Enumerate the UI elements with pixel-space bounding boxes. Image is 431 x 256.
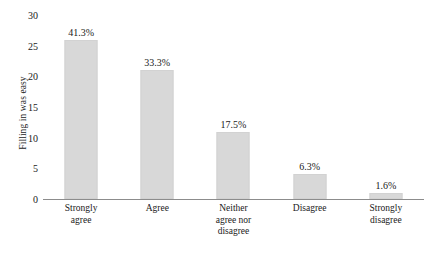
bar[interactable] <box>65 40 98 199</box>
x-category-label-line: Strongly <box>348 203 424 215</box>
bar-value-label: 6.3% <box>299 161 320 172</box>
bar-value-label: 41.3% <box>68 27 94 38</box>
bar[interactable] <box>293 174 326 199</box>
x-category-label-line: Agree <box>119 203 195 215</box>
y-tick-label: 30 <box>28 10 38 21</box>
x-category-label: Agree <box>119 203 195 215</box>
x-category-label-line: agree nor <box>195 215 271 227</box>
y-tick-label: 5 <box>33 163 38 174</box>
x-category-label: Stronglydisagree <box>348 203 424 226</box>
y-tick-label: 20 <box>28 71 38 82</box>
bar[interactable] <box>217 132 250 199</box>
bar-value-label: 17.5% <box>221 119 247 130</box>
bar-group: 41.3% <box>43 15 119 199</box>
y-tick-label: 25 <box>28 40 38 51</box>
y-axis-title: Filling in was easy <box>18 43 28 183</box>
x-category-label-line: Neither <box>195 203 271 215</box>
x-category-label: Stronglyagree <box>43 203 119 226</box>
x-category-label-line: disagree <box>348 215 424 227</box>
x-category-label: Neitheragree nordisagree <box>195 203 271 238</box>
bar[interactable] <box>141 70 174 199</box>
x-category-label-line: agree <box>43 215 119 227</box>
bar-group: 17.5% <box>195 15 271 199</box>
x-category-label: Disagree <box>272 203 348 215</box>
x-category-label-line: Strongly <box>43 203 119 215</box>
bar-group: 1.6% <box>348 15 424 199</box>
plot-area: 05101520253041.3%33.3%17.5%6.3%1.6% <box>43 15 424 199</box>
x-category-label-line: Disagree <box>272 203 348 215</box>
bar-group: 33.3% <box>119 15 195 199</box>
x-category-label-line: disagree <box>195 226 271 238</box>
x-axis-line <box>43 199 424 200</box>
bar-group: 6.3% <box>272 15 348 199</box>
bar-value-label: 33.3% <box>144 57 170 68</box>
bar-chart: Filling in was easy 05101520253041.3%33.… <box>0 0 431 256</box>
y-tick-label: 0 <box>33 194 38 205</box>
y-tick-label: 10 <box>28 132 38 143</box>
bar-value-label: 1.6% <box>375 180 396 191</box>
y-tick-label: 15 <box>28 102 38 113</box>
